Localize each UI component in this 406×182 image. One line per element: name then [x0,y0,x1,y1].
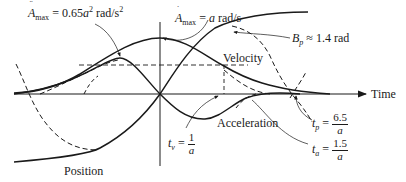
time-axis-label: Time [371,88,396,100]
dashed-approx-right-2 [224,70,270,94]
velocity-label: Velocity [223,52,263,64]
position-label: Position [64,165,103,177]
accel-max-label: Amax = 0.65a2 rad/s2 [28,6,123,22]
acceleration-label: Acceleration [217,117,278,129]
tv-label: tv = 1a [168,132,195,156]
vel-max-label: Amax = a rad/s [175,12,241,27]
dashed-approx-left-3 [84,76,98,94]
ta-label: ta = 1.5a [312,138,348,162]
velocity-curve [14,38,330,94]
acceleration-curve [14,58,300,119]
dashed-approx-left-1 [16,64,98,150]
motion-profile-diagram: Amax = 0.65a2 rad/s2 Amax = a rad/s Bp ≈… [0,0,406,182]
bp-label: Bp ≈ 1.4 rad [292,32,349,47]
leader-bp [234,32,290,38]
tp-label: tp = 6.5a [312,112,348,136]
leader-tp [296,96,312,120]
leader-tv [186,96,218,128]
